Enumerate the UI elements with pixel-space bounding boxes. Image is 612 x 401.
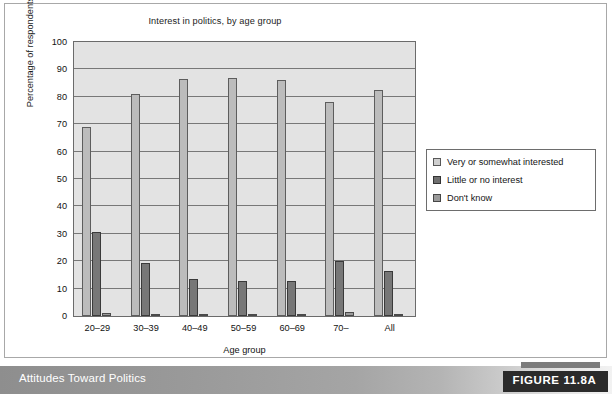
bar (345, 312, 354, 316)
bar (228, 78, 237, 316)
bar-group (220, 42, 269, 316)
y-tick-label: 20 (41, 256, 67, 266)
legend-swatch-icon (433, 176, 441, 184)
bar (374, 90, 383, 316)
legend-item: Little or no interest (433, 175, 588, 185)
x-tick-label: All (365, 323, 414, 333)
bar (179, 79, 188, 316)
bar (131, 94, 140, 316)
y-tick-label: 10 (41, 284, 67, 294)
bar (384, 271, 393, 316)
plot-area (73, 41, 416, 317)
bar-group (366, 42, 415, 316)
bar (277, 80, 286, 316)
bar (238, 281, 247, 316)
bar (335, 261, 344, 316)
bar (325, 102, 334, 316)
bar (199, 314, 208, 316)
x-axis-label: Age group (73, 345, 416, 355)
y-tick-label: 0 (41, 311, 67, 321)
figure-number-label: FIGURE 11.8A (503, 374, 606, 386)
bar-group (123, 42, 172, 316)
y-tick-label: 90 (41, 64, 67, 74)
bar (92, 232, 101, 316)
x-tick-label: 40–49 (170, 323, 219, 333)
legend-item: Don't know (433, 193, 588, 203)
y-tick-label: 60 (41, 147, 67, 157)
chart-legend: Very or somewhat interestedLittle or no … (426, 149, 596, 211)
bar (287, 281, 296, 316)
x-tick-label: 20–29 (73, 323, 122, 333)
y-tick-label: 80 (41, 92, 67, 102)
bar (189, 279, 198, 316)
bar (141, 263, 150, 316)
x-tick-label: 60–69 (268, 323, 317, 333)
bar-group (269, 42, 318, 316)
legend-label: Don't know (447, 193, 492, 203)
y-axis-label: Percentage of respondents (25, 0, 39, 132)
y-tick-label: 50 (41, 174, 67, 184)
figure-accent-bar (521, 362, 600, 368)
figure-card: Interest in politics, by age group Perce… (4, 3, 607, 358)
chart-title: Interest in politics, by age group (5, 16, 425, 26)
bar (394, 314, 403, 316)
legend-label: Very or somewhat interested (447, 157, 563, 167)
legend-item: Very or somewhat interested (433, 157, 588, 167)
bar (248, 314, 257, 316)
figure-root: Interest in politics, by age group Perce… (0, 0, 612, 401)
bar-group (171, 42, 220, 316)
legend-label: Little or no interest (447, 175, 523, 185)
bar (151, 314, 160, 316)
bar (82, 127, 91, 316)
y-tick-label: 40 (41, 201, 67, 211)
x-tick-label: 30–39 (122, 323, 171, 333)
figure-caption: Attitudes Toward Politics (19, 372, 146, 384)
bars-layer (74, 42, 415, 316)
bar-group (318, 42, 367, 316)
bar (297, 314, 306, 316)
y-tick-label: 70 (41, 119, 67, 129)
bar-group (74, 42, 123, 316)
legend-swatch-icon (433, 194, 441, 202)
legend-swatch-icon (433, 158, 441, 166)
x-tick-label: 70– (317, 323, 366, 333)
y-tick-label: 30 (41, 229, 67, 239)
y-tick-label: 100 (41, 37, 67, 47)
x-tick-label: 50–59 (219, 323, 268, 333)
bar (102, 313, 111, 316)
